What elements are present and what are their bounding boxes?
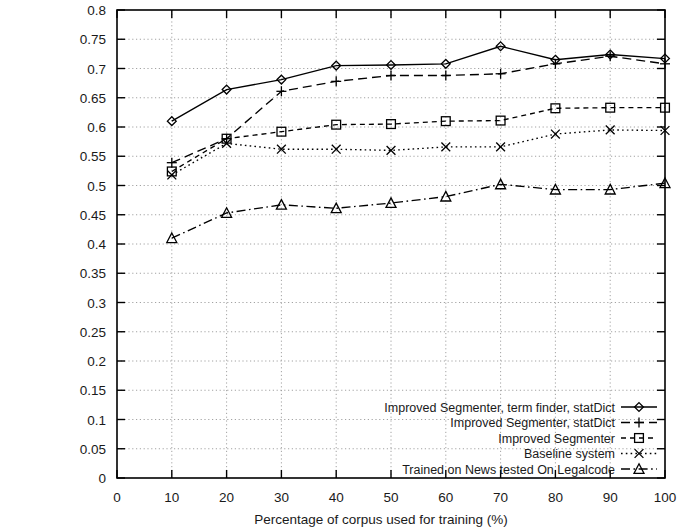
- y-tick-label: 0.65: [80, 91, 106, 106]
- y-tick-label: 0.45: [80, 208, 106, 223]
- data-point-marker: [331, 76, 341, 86]
- data-point-marker: [386, 71, 396, 81]
- y-tick-label: 0.75: [80, 32, 106, 47]
- data-point-marker: [551, 130, 560, 139]
- x-tick-label: 70: [493, 490, 508, 505]
- series-4: [167, 126, 669, 180]
- y-tick-label: 0: [98, 471, 106, 486]
- data-point-marker: [332, 145, 341, 154]
- y-tick-label: 0.3: [87, 296, 106, 311]
- data-point-marker: [441, 71, 451, 81]
- x-tick-label: 0: [113, 490, 121, 505]
- x-tick-label: 10: [164, 490, 179, 505]
- series-line: [172, 183, 665, 238]
- y-tick-label: 0.5: [87, 179, 106, 194]
- data-point-marker: [167, 158, 177, 168]
- legend-label: Improved Segmenter, statDict: [450, 416, 615, 430]
- y-tick-label: 0.15: [80, 383, 106, 398]
- y-tick-label: 0.4: [87, 237, 106, 252]
- legend-item-1[interactable]: Improved Segmenter, term finder, statDic…: [384, 401, 657, 415]
- series-1: [167, 42, 669, 126]
- legend-item-5[interactable]: Trained on News tested On Legalcode: [402, 463, 657, 477]
- y-tick-label: 0.6: [87, 120, 106, 135]
- series-3: [167, 103, 669, 176]
- series-line: [172, 108, 665, 172]
- x-tick-label: 60: [438, 490, 453, 505]
- y-tick-label: 0.35: [80, 266, 106, 281]
- legend-label: Baseline system: [524, 447, 615, 461]
- line-chart: 00.050.10.150.20.250.30.350.40.450.50.55…: [0, 0, 682, 527]
- x-tick-label: 40: [329, 490, 344, 505]
- data-point-marker: [634, 418, 644, 428]
- y-tick-label: 0.1: [87, 413, 106, 428]
- legend-item-4[interactable]: Baseline system: [524, 447, 657, 461]
- x-axis-title: Percentage of corpus used for training (…: [254, 512, 508, 527]
- series-line: [172, 46, 665, 121]
- legend-label: Improved Segmenter, term finder, statDic…: [384, 401, 615, 415]
- legend-item-2[interactable]: Improved Segmenter, statDict: [450, 416, 657, 430]
- y-tick-label: 0.25: [80, 325, 106, 340]
- chart-legend: Improved Segmenter, term finder, statDic…: [384, 401, 657, 477]
- y-tick-label: 0.55: [80, 149, 106, 164]
- chart-container: 00.050.10.150.20.250.30.350.40.450.50.55…: [0, 0, 682, 527]
- y-tick-label: 0.05: [80, 442, 106, 457]
- x-tick-label: 20: [219, 490, 234, 505]
- series-2: [167, 51, 670, 167]
- y-tick-label: 0.8: [87, 3, 106, 18]
- legend-label: Trained on News tested On Legalcode: [402, 463, 615, 477]
- x-tick-label: 100: [654, 490, 677, 505]
- legend-label: Improved Segmenter: [498, 432, 615, 446]
- x-tick-label: 30: [274, 490, 289, 505]
- y-tick-label: 0.7: [87, 62, 106, 77]
- data-point-marker: [496, 69, 506, 79]
- x-tick-label: 50: [383, 490, 398, 505]
- x-tick-label: 80: [548, 490, 563, 505]
- series-5: [167, 178, 670, 243]
- y-tick-label: 0.2: [87, 354, 106, 369]
- legend-item-3[interactable]: Improved Segmenter: [498, 432, 657, 446]
- x-tick-label: 90: [603, 490, 618, 505]
- series-line: [172, 56, 665, 162]
